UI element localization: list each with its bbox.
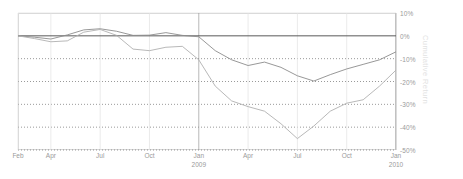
gridlines-group	[18, 13, 396, 150]
x-tick-label: Oct	[144, 152, 154, 161]
y-tick-label: -20%	[400, 78, 416, 85]
x-tick-label: Jan2009	[192, 152, 206, 169]
y-tick-label: 0%	[400, 32, 410, 39]
y-tick-label: -40%	[400, 124, 416, 131]
y-axis-title: Cumulative Return	[418, 13, 432, 125]
cumulative-return-chart: 10%0%-10%-20%-30%-40%-50% FebAprJulOctJa…	[0, 0, 463, 179]
series-paths-group	[18, 29, 396, 139]
x-tick-label: Jul	[96, 152, 104, 161]
y-axis-title-text: Cumulative Return	[421, 35, 430, 104]
x-tick-label: Jan2010	[389, 152, 403, 169]
x-tick-label: Oct	[342, 152, 352, 161]
x-tick-label: Apr	[46, 152, 56, 161]
y-tick-label: 10%	[400, 10, 413, 17]
y-tick-label: -10%	[400, 55, 416, 62]
x-tick-label: Apr	[243, 152, 253, 161]
x-tick-label: Feb	[12, 152, 23, 161]
y-tick-label: -30%	[400, 101, 416, 108]
series-line-series-2	[18, 29, 396, 138]
x-tick-label: Jul	[293, 152, 301, 161]
